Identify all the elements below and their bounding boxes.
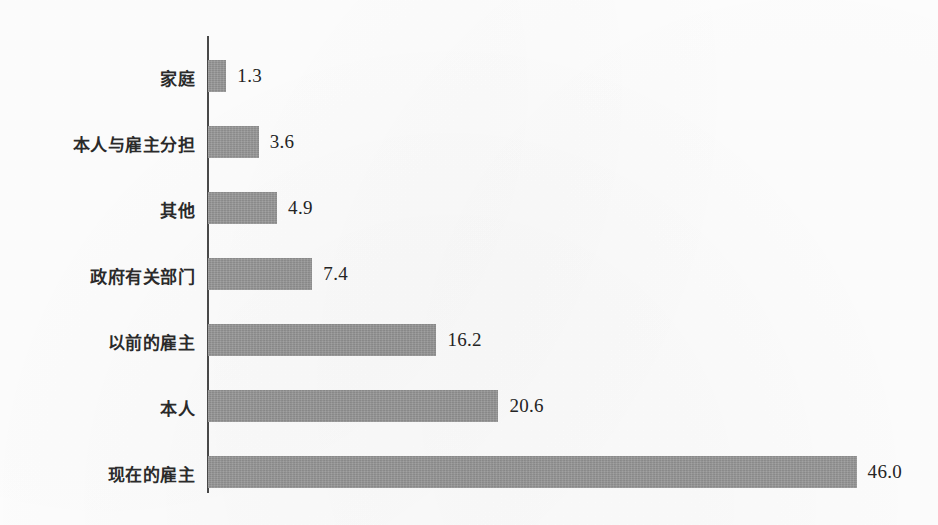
- bar: [208, 456, 857, 488]
- bar-row: 本人与雇主分担3.6: [0, 126, 938, 158]
- bar-chart-figure: 家庭1.3本人与雇主分担3.6其他4.9政府有关部门7.4以前的雇主16.2本人…: [0, 0, 938, 525]
- value-label: 4.9: [288, 197, 313, 219]
- value-label: 7.4: [323, 263, 348, 285]
- bar-row: 其他4.9: [0, 192, 938, 224]
- bar: [208, 60, 226, 92]
- category-label: 其他: [0, 197, 195, 222]
- category-label: 本人: [0, 395, 195, 420]
- bar-row: 以前的雇主16.2: [0, 324, 938, 356]
- value-label: 20.6: [509, 395, 543, 417]
- bar-row: 政府有关部门7.4: [0, 258, 938, 290]
- bar-row: 现在的雇主46.0: [0, 456, 938, 488]
- value-label: 46.0: [868, 461, 902, 483]
- category-label: 现在的雇主: [0, 461, 195, 486]
- value-label: 3.6: [270, 131, 295, 153]
- plot-area: 家庭1.3本人与雇主分担3.6其他4.9政府有关部门7.4以前的雇主16.2本人…: [0, 0, 938, 525]
- bar-row: 本人20.6: [0, 390, 938, 422]
- bar: [208, 258, 312, 290]
- bar: [208, 324, 436, 356]
- category-label: 家庭: [0, 65, 195, 90]
- bar-row: 家庭1.3: [0, 60, 938, 92]
- bar: [208, 126, 259, 158]
- bar: [208, 192, 277, 224]
- value-label: 16.2: [447, 329, 481, 351]
- category-label: 政府有关部门: [0, 263, 195, 288]
- value-label: 1.3: [237, 65, 262, 87]
- category-label: 以前的雇主: [0, 329, 195, 354]
- category-label: 本人与雇主分担: [0, 131, 195, 156]
- bar: [208, 390, 498, 422]
